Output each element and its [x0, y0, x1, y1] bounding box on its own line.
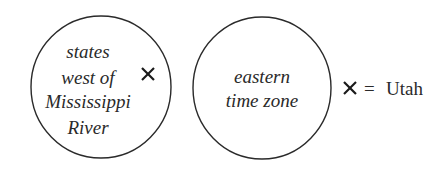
set-label-line-2: west of — [61, 67, 117, 88]
legend-equals: = — [364, 78, 375, 99]
set-label-line-4: River — [66, 117, 109, 138]
set-label-line-1: eastern — [234, 66, 290, 87]
set-label-line-2: time zone — [226, 90, 298, 111]
set-label-line-3: Mississippi — [44, 91, 131, 112]
utah-marker-icon — [142, 68, 154, 80]
legend-label: Utah — [386, 78, 423, 99]
set-eastern-time-zone: eastern time zone — [193, 17, 331, 159]
set-west-of-mississippi: states west of Mississippi River — [31, 16, 171, 158]
set-label-line-1: states — [66, 41, 109, 62]
legend-marker-icon — [344, 82, 356, 94]
venn-diagram: states west of Mississippi River eastern… — [0, 0, 444, 170]
circle-eastern-time-zone — [193, 17, 331, 159]
legend: = Utah — [344, 78, 423, 99]
